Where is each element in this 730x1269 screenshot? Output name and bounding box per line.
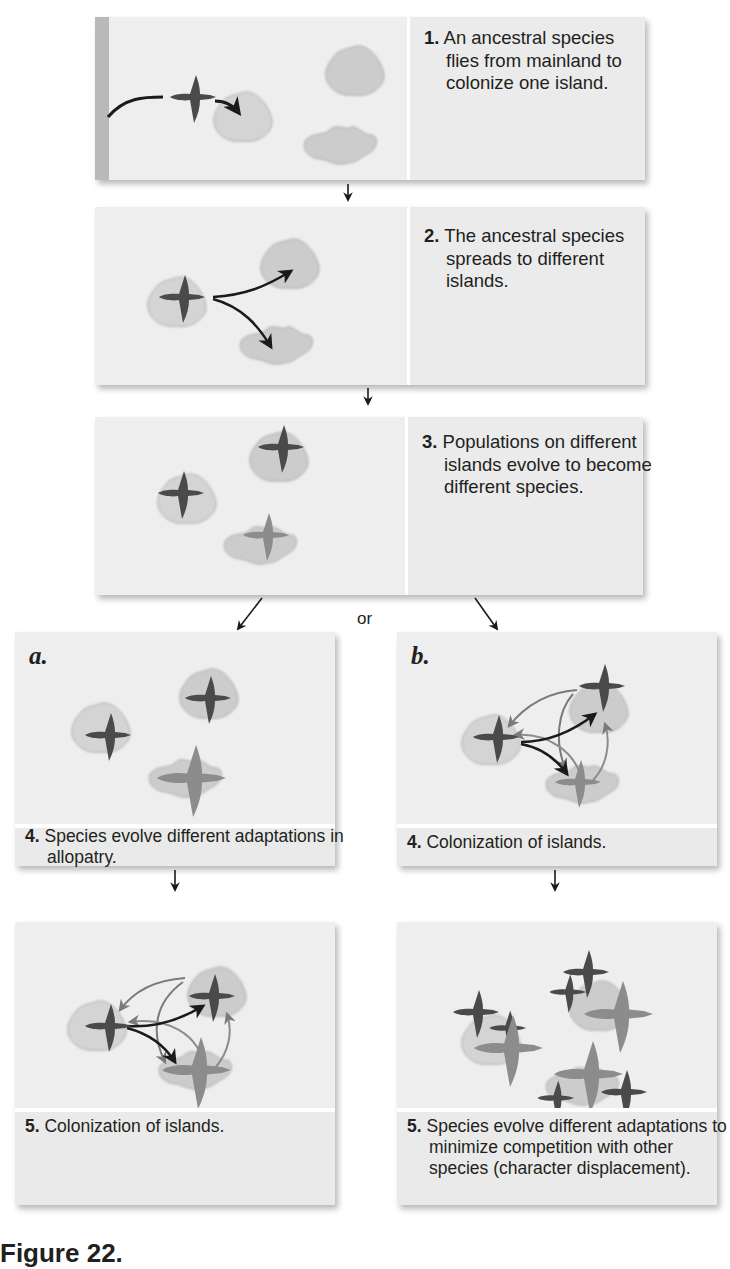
branch-or-label: or (357, 609, 372, 629)
branch-a-step-4-panel: a. 4. Species evolve different adaptatio… (15, 632, 335, 866)
branch-arrow-b-icon (475, 598, 497, 629)
branch-b-step-4-caption-area: 4. Colonization of islands. (397, 824, 717, 866)
branch-b-step-4-illustration: b. (397, 632, 717, 826)
step-2-text-area: 2. The ancestral species spreads to diff… (407, 207, 645, 385)
colonization-arrow (120, 978, 185, 1010)
branch-a-step-5-text: 5. Colonization of islands. (25, 1116, 347, 1137)
mainland-shape (95, 17, 109, 180)
step-description: Species evolve different adaptations to … (426, 1116, 726, 1178)
branch-a-step-4-caption-area: 4. Species evolve different adaptations … (15, 824, 335, 866)
colonization-arrow (509, 690, 577, 726)
species-c-bird-icon (157, 745, 226, 817)
branch-b-step-5-illustration (397, 922, 717, 1108)
step-3-text-area: 3. Populations on different islands evol… (405, 417, 643, 595)
branch-b-step-5-panel: 5. Species evolve different adaptations … (397, 922, 717, 1205)
flight-path-arrow (108, 97, 163, 117)
island-home (148, 277, 206, 327)
island-south (304, 127, 376, 165)
island-north (250, 432, 308, 482)
step-number: 4. (25, 826, 40, 846)
step-1-text-area: 1. An ancestral species flies from mainl… (407, 17, 645, 180)
island-north (326, 46, 384, 96)
branch-b-step-4-text: 4. Colonization of islands. (407, 832, 729, 853)
step-3-panel: 3. Populations on different islands evol… (95, 417, 643, 595)
step-number: 3. (422, 431, 437, 452)
branch-a-step-4-text: 4. Species evolve different adaptations … (25, 826, 347, 868)
island-west (72, 703, 130, 753)
colonization-arrow (127, 1006, 203, 1026)
branch-b-step-5-caption-area: 5. Species evolve different adaptations … (397, 1108, 717, 1205)
step-1-panel: 1. An ancestral species flies from mainl… (95, 17, 645, 180)
branch-a-step-5-caption-area: 5. Colonization of islands. (15, 1108, 335, 1205)
step-number: 5. (25, 1116, 40, 1136)
step-number: 5. (407, 1116, 422, 1136)
branch-b-step-5-text: 5. Species evolve different adaptations … (407, 1116, 729, 1179)
step-number: 2. (424, 225, 439, 246)
step-2-text: 2. The ancestral species spreads to diff… (424, 225, 651, 293)
step-1-illustration (95, 17, 407, 180)
step-2-panel: 2. The ancestral species spreads to diff… (95, 207, 645, 385)
branch-a-step-5-panel: 5. Colonization of islands. (15, 922, 335, 1205)
down-arrow-icon (363, 388, 373, 408)
step-description: Populations on different islands evolve … (443, 431, 652, 497)
step-description: The ancestral species spreads to differe… (444, 225, 624, 291)
branch-a-step-4-illustration: a. (15, 632, 335, 826)
branch-arrow-a-icon (238, 598, 262, 629)
ancestral-bird-icon (170, 75, 216, 123)
step-2-illustration (95, 207, 407, 385)
step-description: Species evolve different adaptations in … (44, 826, 343, 867)
step-description: An ancestral species flies from mainland… (444, 27, 622, 93)
island-north (261, 239, 319, 289)
step-description: Colonization of islands. (426, 832, 606, 852)
species-c-bird-icon (554, 1041, 623, 1113)
down-arrow-icon (170, 870, 180, 894)
figure-caption: Figure 22. (0, 1238, 123, 1269)
down-arrow-icon (550, 870, 560, 894)
step-1-text: 1. An ancestral species flies from mainl… (424, 27, 651, 95)
down-arrow-icon (343, 184, 353, 204)
colonization-arrow (127, 1028, 175, 1062)
island-south (240, 327, 312, 365)
island-near (214, 92, 272, 142)
step-number: 4. (407, 832, 422, 852)
branch-a-step-5-illustration (15, 922, 335, 1108)
step-number: 1. (424, 27, 439, 48)
step-3-text: 3. Populations on different islands evol… (422, 431, 659, 499)
branch-b-step-4-panel: b. 4. Colonization of islands. (397, 632, 717, 866)
step-description: Colonization of islands. (44, 1116, 224, 1136)
step-3-illustration (95, 417, 405, 595)
